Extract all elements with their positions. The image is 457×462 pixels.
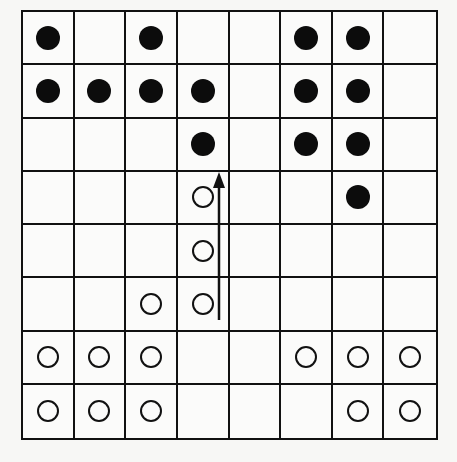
board-cell-r2-c1[interactable] [75,119,127,172]
board-cell-r1-c7[interactable] [384,65,436,118]
white-piece-icon[interactable] [399,346,421,368]
board-cell-r7-c1[interactable] [75,385,127,438]
board-cell-r5-c3[interactable] [178,278,230,331]
black-piece-icon[interactable] [36,79,60,103]
board-cell-r5-c4[interactable] [230,278,282,331]
board-cell-r1-c6[interactable] [333,65,385,118]
black-piece-icon[interactable] [346,185,370,209]
black-piece-icon[interactable] [294,132,318,156]
board-cell-r6-c6[interactable] [333,332,385,385]
board-cell-r7-c4[interactable] [230,385,282,438]
white-piece-icon[interactable] [192,240,214,262]
board-cell-r1-c2[interactable] [126,65,178,118]
board-cell-r6-c2[interactable] [126,332,178,385]
black-piece-icon[interactable] [346,26,370,50]
board-cell-r0-c3[interactable] [178,12,230,65]
board-cell-r2-c6[interactable] [333,119,385,172]
board-cell-r1-c3[interactable] [178,65,230,118]
board-cell-r1-c5[interactable] [281,65,333,118]
black-piece-icon[interactable] [36,26,60,50]
black-piece-icon[interactable] [87,79,111,103]
board-cell-r7-c7[interactable] [384,385,436,438]
board-cell-r0-c4[interactable] [230,12,282,65]
board-cell-r3-c5[interactable] [281,172,333,225]
board-cell-r6-c1[interactable] [75,332,127,385]
white-piece-icon[interactable] [37,346,59,368]
board-cell-r7-c6[interactable] [333,385,385,438]
board-cell-r6-c5[interactable] [281,332,333,385]
board-cell-r0-c5[interactable] [281,12,333,65]
board-cell-r1-c1[interactable] [75,65,127,118]
white-piece-icon[interactable] [192,293,214,315]
black-piece-icon[interactable] [346,132,370,156]
white-piece-icon[interactable] [295,346,317,368]
board-cell-r3-c4[interactable] [230,172,282,225]
black-piece-icon[interactable] [294,26,318,50]
white-piece-icon[interactable] [37,400,59,422]
board-cell-r0-c2[interactable] [126,12,178,65]
board-cell-r3-c2[interactable] [126,172,178,225]
board-cell-r5-c1[interactable] [75,278,127,331]
white-piece-icon[interactable] [140,400,162,422]
white-piece-icon[interactable] [399,400,421,422]
board-cell-r4-c7[interactable] [384,225,436,278]
board-cell-r4-c6[interactable] [333,225,385,278]
board-cell-r7-c3[interactable] [178,385,230,438]
board-cell-r7-c5[interactable] [281,385,333,438]
black-piece-icon[interactable] [139,26,163,50]
board-cell-r4-c2[interactable] [126,225,178,278]
white-piece-icon[interactable] [347,400,369,422]
board-cell-r3-c0[interactable] [23,172,75,225]
board-cell-r5-c6[interactable] [333,278,385,331]
board-cell-r1-c0[interactable] [23,65,75,118]
black-piece-icon[interactable] [294,79,318,103]
board-cell-r2-c2[interactable] [126,119,178,172]
board-cell-r7-c0[interactable] [23,385,75,438]
board-cell-r3-c6[interactable] [333,172,385,225]
board-cell-r5-c5[interactable] [281,278,333,331]
black-piece-icon[interactable] [191,132,215,156]
board-cell-r6-c4[interactable] [230,332,282,385]
board-cell-r0-c1[interactable] [75,12,127,65]
board-cell-r1-c4[interactable] [230,65,282,118]
board-cell-r4-c4[interactable] [230,225,282,278]
white-piece-icon[interactable] [347,346,369,368]
board-cell-r2-c3[interactable] [178,119,230,172]
board-cell-r0-c7[interactable] [384,12,436,65]
board-cell-r7-c2[interactable] [126,385,178,438]
board-cell-r4-c3[interactable] [178,225,230,278]
black-piece-icon[interactable] [346,79,370,103]
black-piece-icon[interactable] [139,79,163,103]
board-cell-r3-c1[interactable] [75,172,127,225]
board-cell-r2-c0[interactable] [23,119,75,172]
white-piece-icon[interactable] [88,400,110,422]
board-cell-r4-c0[interactable] [23,225,75,278]
board-cell-r6-c7[interactable] [384,332,436,385]
board-cell-r6-c0[interactable] [23,332,75,385]
board-cell-r6-c3[interactable] [178,332,230,385]
white-piece-icon[interactable] [140,293,162,315]
board-cell-r5-c7[interactable] [384,278,436,331]
board-cell-r0-c0[interactable] [23,12,75,65]
board-cell-r3-c3[interactable] [178,172,230,225]
white-piece-icon[interactable] [140,346,162,368]
board-cell-r5-c0[interactable] [23,278,75,331]
board-cell-r2-c4[interactable] [230,119,282,172]
board-cell-r5-c2[interactable] [126,278,178,331]
white-piece-icon[interactable] [192,186,214,208]
board-cell-r2-c7[interactable] [384,119,436,172]
board-cell-r2-c5[interactable] [281,119,333,172]
board-cell-r3-c7[interactable] [384,172,436,225]
board-cell-r0-c6[interactable] [333,12,385,65]
black-piece-icon[interactable] [191,79,215,103]
board-cell-r4-c5[interactable] [281,225,333,278]
white-piece-icon[interactable] [88,346,110,368]
board-cell-r4-c1[interactable] [75,225,127,278]
game-board [21,10,438,440]
